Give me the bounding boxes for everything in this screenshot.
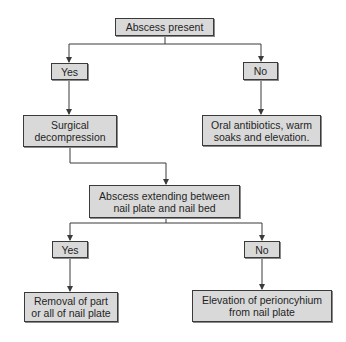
branch-yes-node: Yes (51, 63, 88, 80)
branch2-yes-node: Yes (52, 241, 88, 258)
branch-no-node: No (243, 62, 278, 80)
elevation-perionychium-node: Elevation of perioncyhium from nail plat… (192, 290, 332, 322)
flowchart-diagram: Abscess present Yes No Surgical decompre… (0, 0, 346, 342)
surgical-decompression-node: Surgical decompression (23, 115, 117, 147)
abscess-extending-decision-node: Abscess extending between nail plate and… (89, 185, 240, 218)
oral-antibiotics-node: Oral antibiotics, warm soaks and elevati… (202, 115, 321, 146)
root-node-abscess-present: Abscess present (115, 18, 214, 36)
branch2-no-node: No (244, 241, 280, 258)
removal-nail-plate-node: Removal of part or all of nail plate (24, 292, 118, 322)
